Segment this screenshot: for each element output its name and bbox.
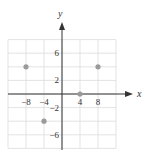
y-axis-label: y [57, 8, 63, 19]
x-axis-label: x [136, 88, 142, 99]
data-point [23, 64, 28, 69]
y-tick-label: 2 [55, 75, 60, 85]
data-point [41, 119, 46, 124]
x-tick-label: 8 [96, 97, 101, 107]
y-tick-label: −2 [49, 103, 59, 113]
axes [8, 22, 133, 150]
x-tick-label: −8 [21, 97, 31, 107]
x-axis-arrow-icon [125, 91, 133, 97]
data-point [95, 64, 100, 69]
x-tick-label: −4 [39, 97, 49, 107]
x-tick-label: 4 [78, 97, 83, 107]
y-axis-arrow-icon [59, 22, 65, 30]
scatter-plot: −8−44862−2−6 x y [0, 0, 150, 158]
y-tick-label: −6 [49, 130, 59, 140]
data-point [77, 91, 82, 96]
y-tick-label: 6 [55, 48, 60, 58]
